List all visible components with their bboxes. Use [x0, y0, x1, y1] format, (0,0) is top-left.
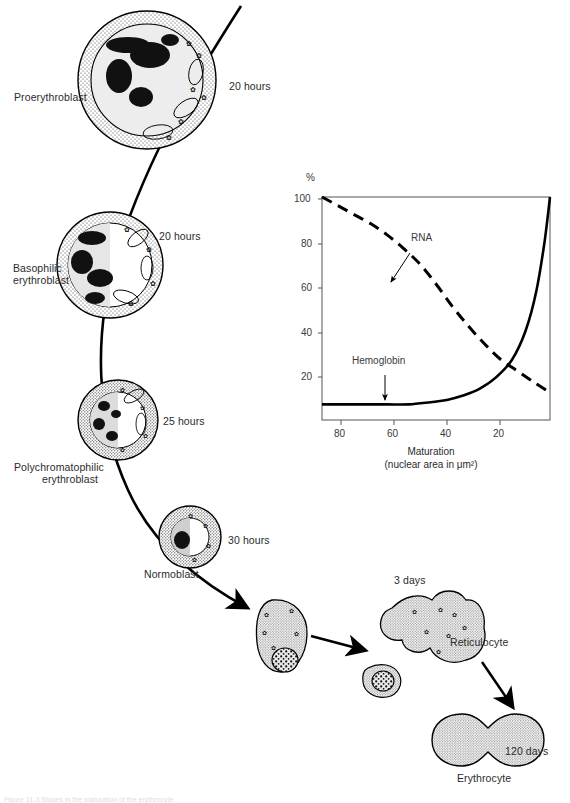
svg-text:✿: ✿ — [188, 513, 193, 519]
chart-series-label-rna: RNA — [411, 232, 432, 243]
svg-text:✿: ✿ — [166, 134, 172, 141]
svg-text:✿: ✿ — [412, 608, 417, 615]
chart-ytick-80: 80 — [301, 238, 312, 249]
svg-text:✿: ✿ — [150, 280, 156, 287]
label-erythrocyte-duration: 120 days — [505, 745, 548, 757]
cell-erythrocyte — [432, 714, 544, 766]
cell-proerythroblast: ✿✿ ✿✿ ✿✿ — [78, 11, 216, 149]
svg-text:✿: ✿ — [120, 387, 125, 393]
label-erythrocyte: Erythrocyte — [457, 772, 511, 784]
svg-text:✿: ✿ — [186, 40, 192, 47]
svg-text:✿: ✿ — [196, 52, 202, 59]
label-reticulocyte-duration: 3 days — [394, 574, 426, 586]
svg-text:✿: ✿ — [289, 608, 294, 614]
svg-text:✿: ✿ — [264, 612, 269, 618]
svg-text:✿: ✿ — [206, 543, 211, 549]
label-proerythroblast: Proerythroblast — [14, 91, 87, 103]
svg-text:✿: ✿ — [146, 246, 152, 253]
svg-text:✿: ✿ — [178, 118, 184, 125]
chart-ytick-40: 40 — [301, 327, 312, 338]
arrow-to-reticulocyte — [311, 636, 364, 650]
label-basophilic-erythroblast-line1: Basophilic — [13, 262, 62, 274]
svg-text:✿: ✿ — [203, 523, 208, 529]
label-proerythroblast-duration: 20 hours — [229, 80, 271, 92]
chart-xtick-20: 20 — [493, 428, 504, 439]
arrow-to-erythrocyte — [482, 662, 512, 706]
svg-text:✿: ✿ — [128, 300, 134, 307]
cell-normoblast: ✿✿ ✿✿ — [159, 506, 221, 568]
chart-series-label-hemoglobin: Hemoglobin — [352, 355, 405, 366]
cell-basophilic-erythroblast: ✿✿ ✿✿ — [57, 212, 163, 318]
label-normoblast: Normoblast — [144, 568, 199, 580]
svg-text:✿: ✿ — [201, 94, 207, 101]
label-reticulocyte: Reticulocyte — [450, 636, 508, 648]
svg-text:✿: ✿ — [143, 433, 148, 439]
label-polychromatophilic-line1: Polychromatophilic — [14, 461, 104, 473]
svg-text:✿: ✿ — [271, 645, 276, 651]
chart-ytick-20: 20 — [301, 371, 312, 382]
chart-ytick-100: 100 — [294, 193, 311, 204]
cell-reticulocyte: ✿✿ ✿✿ ✿✿ ✿ — [380, 591, 485, 662]
svg-text:✿: ✿ — [124, 226, 130, 233]
svg-text:✿: ✿ — [120, 447, 125, 453]
chart-ytick-60: 60 — [301, 282, 312, 293]
svg-text:✿: ✿ — [294, 631, 299, 637]
svg-text:✿: ✿ — [424, 628, 429, 635]
chart-xlabel-line1: Maturation — [371, 446, 491, 458]
chart-y-axis-unit: % — [306, 172, 315, 183]
cell-nucleus-extrusion: ✿✿ ✿✿ ✿ — [256, 600, 307, 672]
chart-rna-hemoglobin — [318, 197, 550, 425]
figure-caption: Figure 11-3 Stages in the maturation of … — [4, 796, 175, 803]
label-polychromatophilic-line2: erythroblast — [42, 473, 98, 485]
extruded-nucleus — [363, 665, 401, 698]
cell-polychromatophilic-erythroblast: ✿✿ ✿✿ — [78, 380, 158, 460]
label-polychromatophilic-duration: 25 hours — [163, 415, 205, 427]
svg-text:✿: ✿ — [192, 557, 197, 563]
chart-xtick-40: 40 — [440, 428, 451, 439]
chart-xlabel-line2: (nuclear area in μm²) — [351, 459, 511, 471]
chart-xtick-60: 60 — [387, 428, 398, 439]
svg-text:✿: ✿ — [140, 405, 145, 411]
svg-text:✿: ✿ — [438, 606, 443, 613]
label-basophilic-erythroblast-line2: erythroblast — [13, 274, 69, 286]
label-normoblast-duration: 30 hours — [228, 534, 270, 546]
svg-text:✿: ✿ — [262, 630, 267, 636]
svg-text:✿: ✿ — [436, 648, 441, 655]
svg-text:✿: ✿ — [462, 624, 467, 631]
label-basophilic-duration: 20 hours — [159, 230, 201, 242]
chart-xtick-80: 80 — [334, 428, 345, 439]
svg-text:✿: ✿ — [452, 611, 457, 618]
svg-text:✿: ✿ — [190, 86, 196, 93]
